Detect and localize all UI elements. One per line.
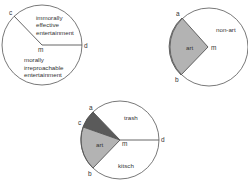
diagram-3-trash-art-kitsch: a c b m d trash art kitsch (78, 101, 165, 179)
region-upper-line-3: entertainment (36, 29, 74, 36)
point-b-label: b (175, 76, 179, 83)
region-art-label: art (186, 44, 194, 51)
point-m-label: m (122, 140, 127, 147)
region-kitsch-label: kitsch (118, 162, 134, 169)
region-art-label: art (96, 141, 104, 148)
region-trash-label: trash (124, 114, 138, 121)
region-upper-line-2: effective (36, 21, 59, 28)
point-m-label: m (211, 44, 216, 51)
point-d-label: d (161, 136, 165, 143)
point-m-label: m (38, 46, 43, 53)
point-c-label: c (78, 119, 82, 126)
diagram-1-entertainment: c m d immorally effective entertainment … (2, 5, 88, 85)
region-lower-line-1: morally (24, 56, 45, 63)
region-upper-line-1: immorally (36, 14, 63, 21)
point-c-label: c (9, 9, 13, 16)
diagram-canvas: c m d immorally effective entertainment … (0, 0, 248, 193)
region-lower-line-3: entertainment (24, 71, 62, 78)
point-d-label: d (84, 42, 88, 49)
point-a-label: a (89, 104, 93, 111)
region-non-art-label: non-art (216, 26, 236, 33)
point-a-label: a (176, 10, 180, 17)
diagram-2-art-non-art: a b m art non-art (169, 8, 248, 86)
point-b-label: b (88, 170, 92, 177)
region-lower-line-2: irreproachable (24, 64, 64, 71)
